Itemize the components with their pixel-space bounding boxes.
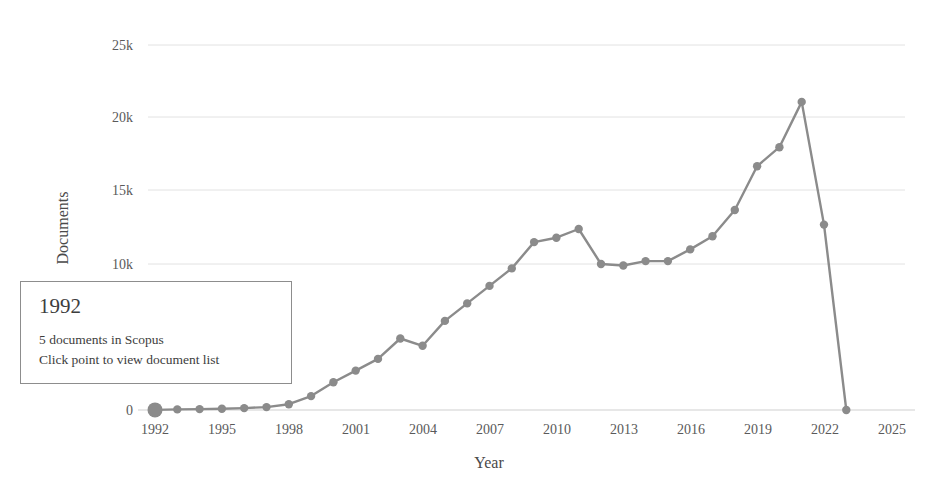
data-point[interactable]: [418, 342, 426, 350]
x-axis-title: Year: [474, 454, 504, 471]
y-tick-10k: 10k: [112, 257, 133, 272]
data-point[interactable]: [218, 405, 226, 413]
data-point-tooltip[interactable]: 1992 5 documents in Scopus Click point t…: [20, 281, 292, 384]
data-point[interactable]: [575, 225, 583, 233]
y-tick-15k: 15k: [112, 183, 133, 198]
x-tick-1995: 1995: [208, 422, 236, 437]
x-tick-2010: 2010: [543, 422, 571, 437]
x-tick-2007: 2007: [476, 422, 504, 437]
tooltip-title: 1992: [39, 296, 275, 317]
data-point[interactable]: [842, 406, 850, 414]
data-point-active[interactable]: [148, 402, 163, 417]
tooltip-hint: Click point to view document list: [39, 350, 275, 370]
x-tick-2025: 2025: [878, 422, 906, 437]
data-point[interactable]: [820, 220, 828, 228]
data-point[interactable]: [374, 355, 382, 363]
documents-per-year-chart: 25k 20k 15k 10k 0 1992 1995 1998 2001 20…: [0, 0, 929, 489]
data-point[interactable]: [775, 143, 783, 151]
data-point[interactable]: [441, 317, 449, 325]
data-point[interactable]: [352, 366, 360, 374]
x-tick-2004: 2004: [409, 422, 437, 437]
x-tick-2001: 2001: [342, 422, 370, 437]
x-tick-1998: 1998: [275, 422, 303, 437]
data-point[interactable]: [240, 404, 248, 412]
data-point[interactable]: [307, 392, 315, 400]
data-point[interactable]: [329, 378, 337, 386]
y-tick-20k: 20k: [112, 110, 133, 125]
data-point[interactable]: [619, 261, 627, 269]
x-tick-2022: 2022: [811, 422, 839, 437]
x-tick-2019: 2019: [744, 422, 772, 437]
x-tick-2013: 2013: [610, 422, 638, 437]
data-point[interactable]: [262, 403, 270, 411]
data-point[interactable]: [396, 334, 404, 342]
chart-canvas: 25k 20k 15k 10k 0 1992 1995 1998 2001 20…: [0, 0, 929, 489]
x-axis-tick-labels: 1992 1995 1998 2001 2004 2007 2010 2013 …: [141, 422, 906, 437]
y-tick-25k: 25k: [112, 38, 133, 53]
data-point[interactable]: [195, 405, 203, 413]
data-point[interactable]: [285, 400, 293, 408]
data-point[interactable]: [708, 232, 716, 240]
data-point[interactable]: [597, 260, 605, 268]
data-point[interactable]: [552, 234, 560, 242]
data-point[interactable]: [485, 282, 493, 290]
data-point[interactable]: [508, 264, 516, 272]
data-point[interactable]: [530, 238, 538, 246]
x-tick-1992: 1992: [141, 422, 169, 437]
data-point[interactable]: [753, 162, 761, 170]
data-point[interactable]: [641, 257, 649, 265]
y-axis-title: Documents: [54, 192, 71, 265]
data-point[interactable]: [173, 405, 181, 413]
data-point[interactable]: [664, 257, 672, 265]
data-point[interactable]: [686, 245, 694, 253]
data-point[interactable]: [731, 206, 739, 214]
tooltip-document-count: 5 documents in Scopus: [39, 330, 275, 350]
y-tick-0: 0: [126, 403, 133, 418]
data-point[interactable]: [463, 299, 471, 307]
x-tick-2016: 2016: [677, 422, 705, 437]
data-point[interactable]: [798, 98, 806, 106]
